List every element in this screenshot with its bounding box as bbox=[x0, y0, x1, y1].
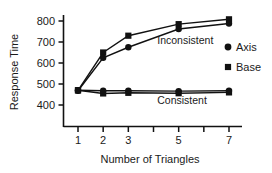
chart-figure: Response Time Number of Triangles 400500… bbox=[0, 0, 272, 173]
chart-legend: AxisBase bbox=[225, 41, 261, 73]
legend-marker-base bbox=[225, 64, 231, 70]
x-tick-label: 5 bbox=[176, 134, 182, 146]
annotation-inconsistent: Inconsistent bbox=[157, 34, 213, 46]
y-tick-label: 700 bbox=[37, 36, 55, 48]
y-tick-label: 500 bbox=[37, 78, 55, 90]
legend-marker-axis bbox=[225, 44, 232, 51]
data-point-inconsistent-base bbox=[125, 33, 131, 39]
legend-label-axis: Axis bbox=[236, 41, 257, 53]
y-tick-label: 600 bbox=[37, 57, 55, 69]
x-axis-title: Number of Triangles bbox=[100, 153, 200, 165]
x-tick-label: 2 bbox=[100, 134, 106, 146]
data-point-consistent-axis bbox=[125, 88, 131, 94]
x-tick-label: 1 bbox=[75, 134, 81, 146]
data-point-inconsistent-axis bbox=[125, 44, 131, 50]
annotation-consistent: Consistent bbox=[157, 94, 207, 106]
annotation-layer: InconsistentConsistent bbox=[157, 34, 213, 106]
x-tick-group: 12357 bbox=[75, 127, 232, 147]
y-tick-label: 400 bbox=[37, 99, 55, 111]
y-axis-title: Response Time bbox=[8, 34, 20, 110]
x-tick-label: 7 bbox=[226, 134, 232, 146]
chart-canvas: Response Time Number of Triangles 400500… bbox=[0, 0, 272, 173]
data-point-consistent-axis bbox=[75, 87, 81, 93]
y-tick-group: 400500600700800 bbox=[37, 15, 64, 111]
data-point-inconsistent-axis bbox=[175, 26, 181, 32]
data-point-consistent-axis bbox=[100, 88, 106, 94]
legend-label-base: Base bbox=[236, 61, 261, 73]
x-tick-label: 3 bbox=[125, 134, 131, 146]
data-point-inconsistent-axis bbox=[226, 20, 232, 26]
data-series-layer bbox=[75, 16, 232, 96]
data-point-consistent-axis bbox=[226, 88, 232, 94]
y-tick-label: 800 bbox=[37, 15, 55, 27]
data-point-inconsistent-axis bbox=[100, 55, 106, 61]
